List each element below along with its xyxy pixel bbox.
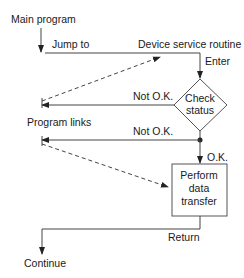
enter-label: Enter	[205, 55, 231, 67]
process-line1: Perform	[180, 169, 218, 181]
process-line2: data	[189, 182, 210, 194]
flowchart: Main program Jump to Device service rout…	[0, 0, 244, 278]
ok-label: O.K.	[207, 151, 228, 163]
continue-label: Continue	[24, 257, 66, 269]
device-service-routine-label: Device service routine	[138, 38, 241, 50]
return-label: Return	[168, 231, 200, 243]
jump-to-line	[45, 53, 200, 78]
not-ok-2-label: Not O.K.	[133, 125, 173, 137]
program-links-label: Program links	[27, 116, 91, 128]
decision-line2: status	[186, 104, 214, 116]
program-link-down	[42, 144, 168, 187]
not-ok-1-label: Not O.K.	[133, 90, 173, 102]
jump-to-label: Jump to	[52, 38, 90, 50]
main-program-label: Main program	[11, 13, 76, 25]
process-line3: transfer	[181, 195, 217, 207]
decision-line1: Check	[185, 92, 216, 104]
